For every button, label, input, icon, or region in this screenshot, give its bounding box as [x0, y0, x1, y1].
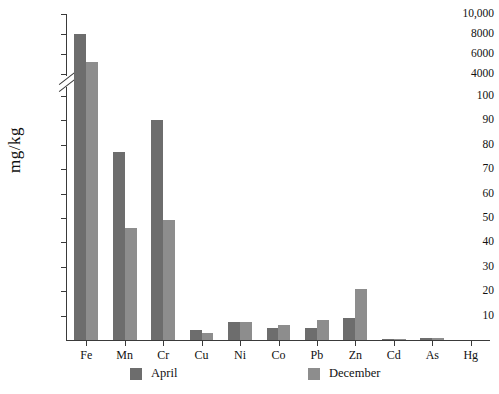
- legend-swatch-april: [130, 368, 142, 380]
- x-tick-mark: [125, 340, 126, 346]
- bar-group: [228, 14, 252, 340]
- legend-item-december[interactable]: December: [308, 366, 380, 381]
- bar-pb-april: [305, 328, 317, 340]
- bar-group: [420, 14, 444, 340]
- legend-swatch-december: [308, 368, 320, 380]
- x-tick-mark: [240, 340, 241, 346]
- bar-group: [305, 14, 329, 340]
- bar-cu-december: [202, 333, 214, 340]
- bar-group: [113, 14, 137, 340]
- bar-cu-april: [190, 330, 202, 340]
- plot-area: [67, 14, 490, 340]
- bar-mn-april: [113, 152, 125, 340]
- bar-ni-april: [228, 322, 240, 340]
- x-tick-mark: [355, 340, 356, 346]
- x-tick-mark: [432, 340, 433, 346]
- chart-legend: AprilDecember: [0, 366, 494, 386]
- bar-fe-december: [86, 62, 98, 340]
- bar-co-december: [278, 325, 290, 340]
- x-tick-mark: [202, 340, 203, 346]
- bar-cr-april: [151, 120, 163, 340]
- x-label-hg: Hg: [441, 348, 499, 363]
- bar-zn-april: [343, 318, 355, 340]
- bar-ni-december: [240, 322, 252, 340]
- bar-cr-december: [163, 220, 175, 340]
- x-tick-mark: [394, 340, 395, 346]
- bar-group: [151, 14, 175, 340]
- bar-group: [343, 14, 367, 340]
- bar-group: [190, 14, 214, 340]
- x-tick-mark: [86, 340, 87, 346]
- bar-pb-december: [317, 320, 329, 340]
- x-tick-mark: [471, 340, 472, 346]
- bar-as-april: [420, 338, 432, 340]
- legend-item-april[interactable]: April: [130, 366, 177, 381]
- bar-zn-december: [355, 289, 367, 340]
- y-axis-title: mg/kg: [5, 147, 25, 173]
- bar-cd-december: [394, 339, 406, 340]
- bar-mn-december: [125, 228, 137, 340]
- bar-fe-april: [74, 34, 86, 340]
- bar-group: [459, 14, 483, 340]
- x-tick-mark: [279, 340, 280, 346]
- x-tick-mark: [163, 340, 164, 346]
- bar-group: [267, 14, 291, 340]
- bar-as-december: [432, 338, 444, 340]
- x-tick-mark: [317, 340, 318, 346]
- bar-group: [382, 14, 406, 340]
- bar-group: [74, 14, 98, 340]
- legend-label: December: [329, 366, 380, 381]
- legend-label: April: [151, 366, 177, 381]
- bar-cd-april: [382, 339, 394, 340]
- bar-co-april: [267, 328, 279, 340]
